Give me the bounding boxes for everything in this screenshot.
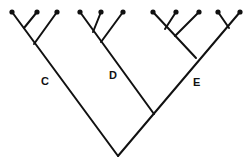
branch-line xyxy=(93,12,101,32)
branch-line xyxy=(80,12,154,114)
tip-node-dot xyxy=(34,9,39,14)
tip-nodes xyxy=(9,9,242,14)
tip-node-dot xyxy=(150,9,155,14)
branch-line xyxy=(175,12,199,36)
clade-label-e: E xyxy=(193,77,200,88)
branch-line xyxy=(101,12,123,42)
clade-label-d: D xyxy=(109,70,117,81)
tip-node-dot xyxy=(54,9,59,14)
branch-line xyxy=(118,12,240,156)
branch-line xyxy=(153,12,196,58)
tip-node-dot xyxy=(237,9,242,14)
branch-line xyxy=(12,12,118,156)
tip-node-dot xyxy=(9,9,14,14)
branch-line xyxy=(165,12,176,29)
tip-node-dot xyxy=(215,9,220,14)
branch-line xyxy=(24,12,37,28)
branch-line xyxy=(34,12,57,44)
branch-line xyxy=(218,12,229,28)
tip-node-dot xyxy=(173,9,178,14)
clade-label-c: C xyxy=(41,76,49,87)
cladogram xyxy=(0,0,248,166)
tip-node-dot xyxy=(98,9,103,14)
tip-node-dot xyxy=(77,9,82,14)
tip-node-dot xyxy=(120,9,125,14)
tip-node-dot xyxy=(196,9,201,14)
